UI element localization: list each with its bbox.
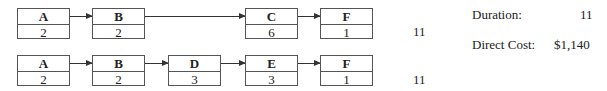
arrow: [298, 63, 320, 64]
node-a-path2: A2: [17, 55, 70, 86]
node-b-path2: B2: [92, 55, 145, 86]
duration-value: 11: [580, 7, 593, 23]
node-a-path1: A2: [17, 8, 70, 39]
node-d-path2: D3: [168, 55, 221, 86]
node-e-path2: E3: [245, 55, 298, 86]
path1-total: 11: [413, 24, 426, 40]
node-f-path1: F1: [320, 8, 373, 39]
node-c-path1: C6: [245, 8, 298, 39]
path2-total: 11: [413, 72, 426, 88]
arrow: [70, 63, 92, 64]
arrow: [145, 63, 168, 64]
duration-label: Duration:: [472, 7, 522, 23]
cost-label: Direct Cost:: [472, 37, 535, 53]
arrow: [298, 16, 320, 17]
node-f-path2: F1: [320, 55, 373, 86]
arrow: [70, 16, 92, 17]
cost-value: $1,140: [554, 37, 590, 53]
node-b-path1: B2: [92, 8, 145, 39]
arrow: [145, 16, 245, 17]
arrow: [221, 63, 245, 64]
